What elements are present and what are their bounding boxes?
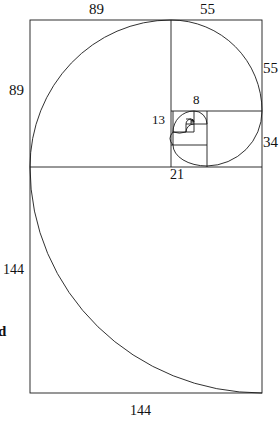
label-top-55: 55: [200, 2, 215, 17]
spiral-arc-5: [186, 124, 194, 132]
spiral-arc-55: [171, 20, 262, 111]
spiral-arc-144: [30, 167, 262, 393]
outer-rectangle: [30, 20, 262, 393]
spiral-arc-8: [194, 111, 207, 124]
spiral-arc-34: [207, 111, 262, 166]
label-edge-d: d: [0, 324, 6, 339]
label-bottom-144: 144: [130, 404, 151, 418]
label-left-89: 89: [9, 83, 24, 98]
label-inner-13: 13: [152, 113, 165, 126]
spiral-arc-21: [173, 145, 207, 166]
label-right-34: 34: [263, 135, 278, 150]
label-left-144: 144: [3, 263, 24, 277]
spiral-arc-3: [186, 119, 191, 124]
spiral-arc-89: [30, 20, 171, 167]
label-bottom-21: 21: [170, 168, 184, 182]
spiral-svg-canvas: [0, 0, 279, 423]
label-right-55: 55: [263, 61, 278, 76]
label-top-89: 89: [89, 2, 104, 17]
label-inner-8: 8: [193, 93, 200, 106]
fibonacci-spiral-figure: 89 55 89 55 34 13 8 21 144 144 d: [0, 0, 279, 423]
